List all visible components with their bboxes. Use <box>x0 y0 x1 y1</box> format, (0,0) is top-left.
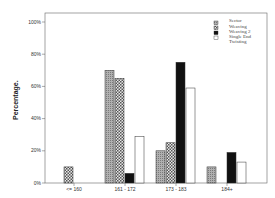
y-tick-label: 60% <box>31 83 42 89</box>
y-tick-label: 100% <box>28 19 41 25</box>
y-axis-label: Percentage. <box>12 80 20 120</box>
bar <box>135 136 144 183</box>
legend-label: Twisting <box>229 39 247 44</box>
bar <box>105 70 114 183</box>
bar-chart: 0%20%40%60%80%100% Percentage. <= 160161… <box>0 0 275 198</box>
bar <box>227 152 236 183</box>
x-tick-label: 161 - 172 <box>114 186 135 192</box>
legend-swatch <box>214 21 218 25</box>
bar <box>64 167 73 183</box>
x-tick-label: <= 160 <box>66 186 82 192</box>
x-axis: <= 160161 - 172173 - 183184+ <box>66 183 232 192</box>
y-tick-label: 20% <box>31 147 42 153</box>
legend-swatch <box>214 26 218 30</box>
y-tick-label: 40% <box>31 115 42 121</box>
legend-swatch <box>214 36 218 40</box>
bar <box>115 78 124 183</box>
bar <box>176 62 185 183</box>
y-tick-label: 0% <box>34 180 42 186</box>
bar <box>156 151 165 183</box>
x-tick-label: 184+ <box>221 186 232 192</box>
legend-title: Sector <box>229 18 242 23</box>
y-tick-label: 80% <box>31 51 42 57</box>
bar <box>166 143 175 183</box>
bar <box>125 173 134 183</box>
bar <box>237 162 246 183</box>
legend-swatch <box>214 31 218 35</box>
bar <box>186 88 195 183</box>
bar <box>207 167 216 183</box>
y-axis: 0%20%40%60%80%100% <box>28 19 45 186</box>
x-tick-label: 173 - 183 <box>165 186 186 192</box>
